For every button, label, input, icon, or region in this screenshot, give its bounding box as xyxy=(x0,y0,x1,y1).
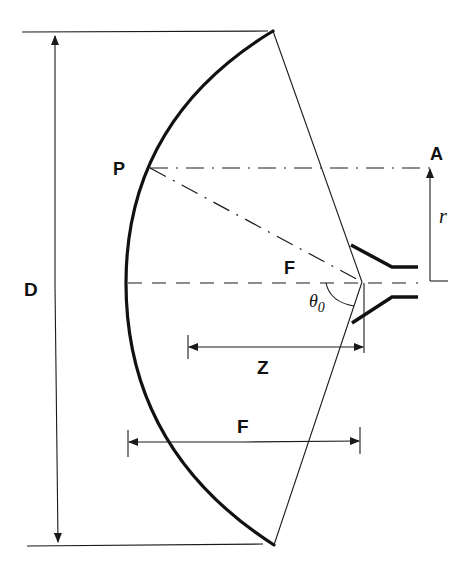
focal-length-label: F xyxy=(237,416,249,437)
lower-rim-ray xyxy=(274,282,362,545)
top-extension-line xyxy=(22,31,268,32)
feed-horn-lower xyxy=(352,297,418,323)
focus-label: F xyxy=(284,258,295,278)
f-arrow-right xyxy=(243,441,359,442)
diameter-label: D xyxy=(24,279,38,300)
radius-label: r xyxy=(439,205,447,227)
bottom-extension-line xyxy=(27,544,263,546)
axial-distance-label: Z xyxy=(257,357,269,378)
point-p-label: P xyxy=(113,159,125,179)
reflector-dish xyxy=(126,31,274,545)
point-a-label: A xyxy=(430,144,443,164)
half-angle-label: θ0 xyxy=(309,291,325,315)
diameter-arrow-lower xyxy=(55,285,58,542)
feed-horn-upper xyxy=(351,245,418,267)
ray-pf xyxy=(150,168,362,282)
parabolic-reflector-diagram: D P A r F θ0 Z F xyxy=(0,0,471,567)
upper-rim-ray xyxy=(273,31,362,282)
half-angle-arc xyxy=(326,283,354,306)
